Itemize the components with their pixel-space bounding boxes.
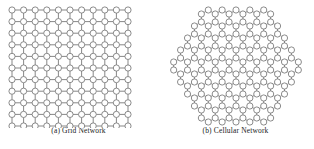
network-node [55, 111, 61, 117]
panel-cellular-network: (b) Cellular Network [157, 0, 314, 149]
network-node [90, 111, 96, 117]
network-node [268, 83, 274, 89]
network-node [254, 59, 260, 65]
network-node [219, 55, 225, 61]
network-node [44, 65, 50, 71]
network-node [125, 7, 131, 13]
network-node [55, 30, 61, 36]
cellular-nodes [171, 7, 302, 125]
network-node [32, 7, 38, 13]
network-node [113, 100, 119, 106]
network-node [212, 59, 218, 65]
network-node [274, 55, 280, 61]
network-node [79, 7, 85, 13]
network-node [205, 103, 211, 109]
cellular-network-canvas [157, 0, 314, 128]
network-node [9, 53, 15, 59]
network-node [254, 19, 260, 25]
network-node [177, 47, 183, 53]
network-node [219, 95, 225, 101]
network-node [125, 111, 131, 117]
network-node [268, 59, 274, 65]
network-node [274, 31, 280, 37]
network-node [191, 55, 197, 61]
network-node [205, 95, 211, 101]
network-node [113, 53, 119, 59]
network-node [44, 7, 50, 13]
network-node [205, 31, 211, 37]
network-node [254, 107, 260, 113]
network-node [233, 103, 239, 109]
network-node [261, 95, 267, 101]
network-node [233, 7, 239, 13]
network-node [90, 19, 96, 25]
network-node [79, 111, 85, 117]
network-node [233, 95, 239, 101]
network-node [171, 67, 177, 73]
network-node [67, 19, 73, 25]
network-node [9, 123, 15, 128]
network-node [288, 79, 294, 85]
network-node [198, 11, 204, 17]
network-node [274, 103, 280, 109]
network-node [55, 100, 61, 106]
network-node [274, 47, 280, 53]
network-node [219, 31, 225, 37]
network-node [125, 100, 131, 106]
network-node [9, 111, 15, 117]
network-node [102, 19, 108, 25]
network-node [281, 59, 287, 65]
network-node [21, 30, 27, 36]
network-node [67, 123, 73, 128]
network-node [226, 35, 232, 41]
network-node [205, 47, 211, 53]
network-node [79, 42, 85, 48]
network-node [281, 67, 287, 73]
network-node [240, 115, 246, 121]
network-node [21, 111, 27, 117]
network-node [90, 88, 96, 94]
network-node [44, 100, 50, 106]
figure-container: (a) Grid Network (b) Cellular Network [0, 0, 314, 149]
network-node [191, 79, 197, 85]
network-node [226, 83, 232, 89]
network-node [261, 55, 267, 61]
network-node [281, 43, 287, 49]
network-node [240, 43, 246, 49]
network-node [171, 59, 177, 65]
network-node [44, 111, 50, 117]
network-node [44, 42, 50, 48]
network-node [79, 123, 85, 128]
network-node [67, 88, 73, 94]
network-node [247, 71, 253, 77]
network-node [281, 91, 287, 97]
network-node [261, 71, 267, 77]
network-node [240, 59, 246, 65]
network-node [247, 103, 253, 109]
network-node [113, 42, 119, 48]
network-node [9, 7, 15, 13]
network-node [247, 47, 253, 53]
network-node [254, 83, 260, 89]
network-node [240, 35, 246, 41]
network-node [177, 71, 183, 77]
network-node [102, 7, 108, 13]
network-node [32, 53, 38, 59]
network-node [32, 123, 38, 128]
network-node [226, 67, 232, 73]
network-node [67, 42, 73, 48]
network-node [125, 19, 131, 25]
network-node [21, 7, 27, 13]
network-node [184, 83, 190, 89]
network-node [274, 95, 280, 101]
network-node [55, 7, 61, 13]
network-node [32, 111, 38, 117]
network-node [113, 30, 119, 36]
network-node [9, 100, 15, 106]
network-node [226, 115, 232, 121]
network-node [274, 23, 280, 29]
network-node [212, 11, 218, 17]
network-node [44, 30, 50, 36]
network-node [90, 65, 96, 71]
network-node [32, 42, 38, 48]
